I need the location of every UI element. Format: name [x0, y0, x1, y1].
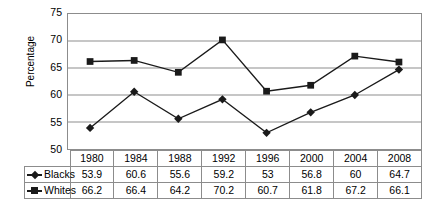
column-header-2008: 2008 — [378, 151, 422, 167]
data-point-whites-2000 — [307, 82, 314, 89]
cell-blacks-1992: 59.2 — [202, 167, 246, 183]
data-point-whites-2004 — [351, 53, 358, 60]
data-point-whites-1980 — [87, 58, 94, 65]
data-point-whites-1988 — [175, 69, 182, 76]
square-marker-icon — [27, 185, 42, 196]
data-point-whites-1992 — [219, 37, 226, 44]
data-point-whites-1984 — [131, 57, 138, 64]
cell-whites-2000: 61.8 — [290, 183, 334, 199]
cell-whites-1992: 70.2 — [202, 183, 246, 199]
y-tick-65: 65 — [40, 62, 62, 73]
column-header-1984: 1984 — [114, 151, 158, 167]
cell-whites-1988: 64.2 — [158, 183, 202, 199]
table-row: Blacks53.960.655.659.25356.86064.7 — [25, 167, 422, 183]
data-point-blacks-2000 — [307, 108, 315, 116]
series-line-blacks — [90, 70, 399, 133]
column-header-1988: 1988 — [158, 151, 202, 167]
legend-label: Blacks — [44, 167, 75, 182]
y-tick-55: 55 — [40, 117, 62, 128]
cell-blacks-2008: 64.7 — [378, 167, 422, 183]
legend-label: Whites — [44, 183, 76, 198]
column-header-1980: 1980 — [70, 151, 114, 167]
data-table: 19801984198819921996200020042008Blacks53… — [24, 150, 422, 199]
data-point-whites-2008 — [396, 59, 403, 66]
table-corner-cell — [25, 151, 71, 167]
chart-container: Percentage 757065605550 1980198419881992… — [0, 0, 440, 200]
column-header-1992: 1992 — [202, 151, 246, 167]
table-row-years: 19801984198819921996200020042008 — [25, 151, 422, 167]
cell-blacks-1980: 53.9 — [70, 167, 114, 183]
legend-item-whites: Whites — [25, 183, 71, 199]
data-point-blacks-2004 — [351, 91, 359, 99]
data-point-whites-1996 — [263, 88, 270, 95]
cell-whites-1984: 66.4 — [114, 183, 158, 199]
cell-whites-1980: 66.2 — [70, 183, 114, 199]
series-line-whites — [90, 40, 399, 91]
cell-blacks-2004: 60 — [334, 167, 378, 183]
cell-blacks-2000: 56.8 — [290, 167, 334, 183]
series-canvas — [68, 14, 421, 149]
cell-whites-2008: 66.1 — [378, 183, 422, 199]
cell-blacks-1984: 60.6 — [114, 167, 158, 183]
y-tick-60: 60 — [40, 89, 62, 100]
cell-blacks-1996: 53 — [246, 167, 290, 183]
plot-area — [67, 13, 422, 150]
y-tick-75: 75 — [40, 7, 62, 18]
diamond-marker-icon — [27, 169, 42, 180]
y-axis-title: Percentage — [25, 7, 36, 117]
legend-item-blacks: Blacks — [25, 167, 71, 183]
table-row: Whites66.266.464.270.260.761.867.266.1 — [25, 183, 422, 199]
data-point-blacks-2008 — [395, 65, 403, 73]
cell-blacks-1988: 55.6 — [158, 167, 202, 183]
cell-whites-2004: 67.2 — [334, 183, 378, 199]
column-header-2004: 2004 — [334, 151, 378, 167]
y-tick-70: 70 — [40, 34, 62, 45]
column-header-1996: 1996 — [246, 151, 290, 167]
cell-whites-1996: 60.7 — [246, 183, 290, 199]
column-header-2000: 2000 — [290, 151, 334, 167]
